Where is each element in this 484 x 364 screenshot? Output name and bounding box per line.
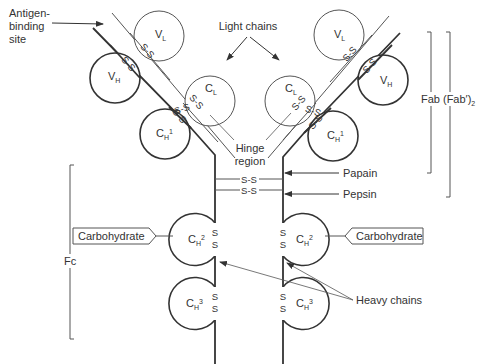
carbohydrate-left-label: Carbohydrate (78, 230, 145, 242)
fc-region: S S S S S S S S (169, 213, 329, 329)
fab-label: Fab(Fab′)2 (421, 93, 475, 107)
light-chain-arrow-left (227, 37, 247, 60)
left-ch3-s-2: S (212, 303, 218, 314)
antigen-binding-site-annotation: Antigen- binding site (9, 7, 103, 45)
carbohydrate-right-tag: Carbohydrate (325, 228, 423, 244)
fc-label: Fc (64, 255, 77, 267)
fc-bracket-group: Fc (62, 165, 80, 339)
antigen-arrow (52, 23, 103, 24)
right-ch2-s-1: S (280, 227, 286, 238)
antibody-diagram: S-S S-S S S S S S S S S S-S S-S S-S S-S … (0, 0, 484, 364)
carbohydrate-right-label: Carbohydrate (356, 230, 423, 242)
pepsin-label: Pepsin (343, 188, 377, 200)
hinge-label-line2: region (235, 155, 266, 167)
left-ch2-s-1: S (212, 227, 218, 238)
left-ch3-s-1: S (212, 291, 218, 302)
right-ch3-s-1: S (280, 291, 286, 302)
light-chains-annotation: Light chains (219, 20, 279, 60)
heavy-chains-label: Heavy chains (356, 294, 423, 306)
antigen-label-line3: site (9, 33, 26, 45)
light-chains-label: Light chains (219, 20, 278, 32)
antigen-label-line2: binding (9, 20, 44, 32)
hinge-disulfide-bonds: S-S S-S (215, 174, 283, 196)
antigen-label-line1: Antigen- (9, 7, 50, 19)
hinge-label-line1: Hinge (236, 142, 265, 154)
fc-bracket (70, 165, 74, 339)
papain-label: Papain (343, 167, 377, 179)
fab-brackets: Fab(Fab′)2 (420, 32, 480, 197)
fab2-bracket (446, 32, 450, 197)
right-ch2-s-2: S (280, 239, 286, 250)
hinge-ss-bond-2: S-S (241, 185, 257, 196)
carbohydrate-left-tag: Carbohydrate (73, 228, 173, 244)
left-ch2-s-2: S (212, 239, 218, 250)
enzyme-annotations: Papain Pepsin (285, 167, 377, 200)
right-ch3-s-2: S (280, 303, 286, 314)
light-chain-arrow-right (250, 37, 279, 60)
hinge-ss-bond-1: S-S (241, 174, 257, 185)
